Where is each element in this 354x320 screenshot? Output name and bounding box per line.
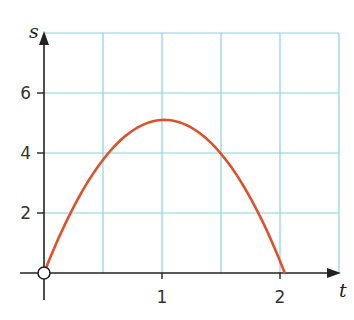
grid bbox=[44, 33, 339, 273]
x-tick-label: 1 bbox=[157, 287, 168, 307]
y-tick-label: 6 bbox=[20, 83, 31, 103]
origin-open-circle bbox=[38, 267, 50, 279]
series-line bbox=[44, 120, 285, 273]
axes bbox=[20, 31, 341, 300]
x-tick-label: 2 bbox=[275, 287, 286, 307]
y-tick-label: 4 bbox=[20, 143, 31, 163]
y-axis-label: s bbox=[29, 20, 39, 42]
y-tick-label: 2 bbox=[20, 203, 31, 223]
x-axis-label: t bbox=[339, 279, 347, 301]
chart: 12246 t s bbox=[0, 0, 354, 320]
series-group bbox=[38, 120, 285, 279]
